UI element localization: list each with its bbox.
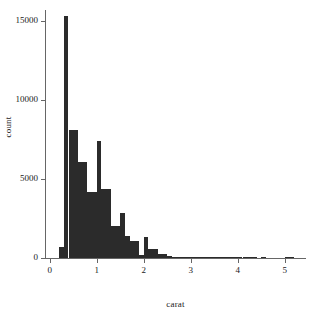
x-axis-tick bbox=[50, 259, 51, 263]
histogram-bar bbox=[290, 257, 295, 258]
histogram-bar bbox=[252, 257, 257, 258]
x-axis-tick bbox=[97, 259, 98, 263]
y-axis-title: count bbox=[3, 97, 13, 157]
y-axis-tick-label: 15000 bbox=[16, 16, 39, 25]
histogram-bar bbox=[261, 257, 266, 258]
x-axis-tick bbox=[144, 259, 145, 263]
histogram-figure: count carat 050001000015000 012345 bbox=[0, 0, 311, 320]
x-axis-line bbox=[45, 258, 306, 259]
y-axis-tick-label: 5000 bbox=[20, 174, 38, 183]
x-axis-tick bbox=[238, 259, 239, 263]
x-axis-tick bbox=[285, 259, 286, 263]
x-axis-tick-label: 0 bbox=[40, 266, 60, 275]
y-axis-tick-label: 10000 bbox=[16, 95, 39, 104]
x-axis-tick-label: 2 bbox=[134, 266, 154, 275]
y-axis-tick bbox=[41, 258, 45, 259]
x-axis-title-text: carat bbox=[166, 299, 184, 309]
x-axis-tick bbox=[191, 259, 192, 263]
histogram-bars bbox=[45, 10, 306, 258]
x-axis-tick-label: 4 bbox=[228, 266, 248, 275]
x-axis-tick-label: 5 bbox=[275, 266, 295, 275]
x-axis-tick-label: 1 bbox=[87, 266, 107, 275]
y-axis-tick-label: 0 bbox=[34, 253, 39, 262]
x-axis-tick-label: 3 bbox=[181, 266, 201, 275]
x-axis-title: carat bbox=[0, 299, 311, 309]
